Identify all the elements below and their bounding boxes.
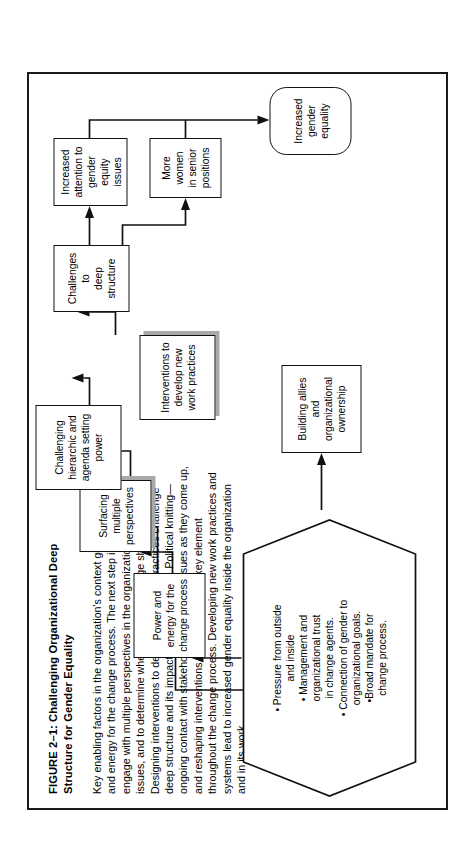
node-power-and-energy-label: Power and energy for the change process [150, 579, 189, 652]
node-surfacing-label: Surfacing multiple perspectives [96, 487, 135, 545]
node-interventions: Interventions to develop new work practi… [139, 335, 215, 420]
node-interventions-label: Interventions to develop new work practi… [158, 342, 197, 412]
figure-caption-title: FIGURE 2–1: Challenging Organizational D… [45, 494, 74, 794]
node-surfacing-multiple-perspectives: Surfacing multiple perspectives [79, 480, 151, 552]
edge-interventions-challenges [89, 312, 115, 335]
node-challenging-hierarchy: Challenging hierarchic and agenda settin… [35, 405, 121, 490]
node-enabling-factors: • Pressure from outside and inside • Man… [241, 518, 417, 798]
node-more-women: More women in senior positions [149, 138, 221, 198]
figure-frame: FIGURE 2–1: Challenging Organizational D… [27, 72, 448, 810]
node-increased-gender-equality-label: Increased gender equality [291, 98, 330, 143]
node-increased-gender-equality: Increased gender equality [269, 87, 351, 155]
edge-challenges-women [122, 210, 185, 245]
node-more-women-label: More women in senior positions [159, 142, 211, 194]
node-increased-attention-label: Increased attention to gender equity iss… [58, 142, 123, 202]
enabling-factors-list: • Pressure from outside and inside • Man… [241, 518, 417, 798]
node-increased-attention: Increased attention to gender equity iss… [53, 138, 127, 206]
edge-attention-equality [89, 120, 257, 138]
figure-rotated-plane: FIGURE 2–1: Challenging Organizational D… [27, 72, 448, 810]
node-challenges-deep-structure: Challenges to deep structure [53, 245, 129, 312]
page-canvas: FIGURE 2–1: Challenging Organizational D… [0, 0, 476, 861]
enabling-factors-text: • Pressure from outside and inside • Man… [270, 600, 389, 716]
node-challenging-hierarchy-label: Challenging hierarchic and agenda settin… [52, 414, 104, 482]
node-power-and-energy: Power and energy for the change process [133, 573, 205, 658]
node-building-allies: Building allies and organizational owner… [281, 365, 361, 453]
edge-hierarchy-interventions [83, 378, 89, 405]
node-challenges-label: Challenges to deep structure [65, 249, 117, 308]
node-building-allies-label: Building allies and organizational owner… [295, 369, 347, 449]
